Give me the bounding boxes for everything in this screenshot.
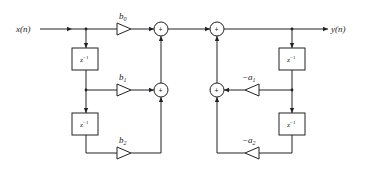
gain-b0: b0 — [117, 11, 131, 35]
delay-block-a1: z−1 — [279, 48, 305, 70]
wire-delay4-out — [259, 135, 292, 153]
adder-1: + — [154, 22, 168, 36]
gain-neg-a2: −a2 — [242, 135, 259, 159]
svg-text:+: + — [215, 87, 219, 94]
input-label: x(n) — [15, 24, 31, 34]
adder-3: + — [210, 22, 224, 36]
wire-b2-out — [131, 97, 161, 153]
svg-text:+: + — [159, 26, 163, 33]
output-label: y(n) — [330, 24, 346, 34]
delay-block-b2: z−1 — [72, 113, 98, 135]
delay-block-a2: z−1 — [279, 113, 305, 135]
svg-text:−a1: −a1 — [242, 72, 256, 83]
gain-neg-a1: −a1 — [242, 72, 259, 96]
svg-text:b1: b1 — [119, 72, 127, 83]
gain-b1: b1 — [117, 72, 131, 96]
svg-text:+: + — [159, 87, 163, 94]
svg-text:+: + — [215, 26, 219, 33]
svg-text:b2: b2 — [119, 135, 127, 146]
wire-delay2-out — [86, 135, 117, 153]
svg-text:−a2: −a2 — [242, 135, 256, 146]
adder-4: + — [210, 83, 224, 97]
svg-text:b0: b0 — [119, 11, 127, 22]
adder-2: + — [154, 83, 168, 97]
direct-form-1-diagram: x(n) z−1 z−1 b0 b1 b2 + + — [0, 0, 367, 174]
delay-block-b1: z−1 — [72, 48, 98, 70]
wire-a2-out — [217, 97, 245, 153]
gain-b2: b2 — [117, 135, 131, 159]
